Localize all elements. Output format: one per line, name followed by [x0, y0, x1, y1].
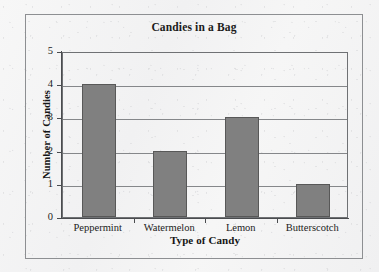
bar: [82, 84, 116, 217]
y-axis-tick-label: 0: [37, 211, 53, 222]
bar: [153, 151, 187, 217]
y-axis-line: [61, 51, 62, 219]
x-axis-category-label: Butterscotch: [277, 222, 349, 233]
y-axis-tick-label: 5: [37, 45, 53, 56]
y-axis-tick-mark: [57, 185, 62, 186]
x-axis-category-label: Watermelon: [134, 222, 206, 233]
y-axis-tick-label: 1: [37, 178, 53, 189]
plot-area: [62, 52, 348, 218]
y-axis-tick-label: 4: [37, 78, 53, 89]
y-axis-tick-mark: [57, 152, 62, 153]
y-axis-tick-mark: [57, 118, 62, 119]
x-axis-title: Type of Candy: [62, 234, 348, 246]
y-axis-title: Number of Candies: [41, 90, 52, 179]
bar: [225, 117, 259, 217]
y-axis-tick-mark: [57, 52, 62, 53]
bar: [296, 184, 330, 217]
bars-group: [63, 53, 347, 217]
x-axis-category-label: Lemon: [205, 222, 277, 233]
y-axis-tick-mark: [57, 85, 62, 86]
x-axis-category-label: Peppermint: [62, 222, 134, 233]
chart-title: Candies in a Bag: [25, 21, 363, 33]
